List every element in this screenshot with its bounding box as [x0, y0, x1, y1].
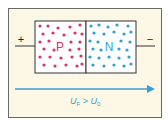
hole-dot	[53, 64, 56, 67]
hole-dot	[56, 26, 59, 29]
electron-dot	[127, 55, 130, 58]
hole-dot	[59, 56, 62, 59]
hole-dot	[70, 55, 73, 58]
hole-dot	[75, 64, 78, 67]
electron-dot	[128, 40, 131, 43]
electron-dot	[117, 56, 120, 59]
hole-dot	[42, 47, 45, 50]
hole-dot	[79, 54, 82, 57]
hole-dot	[47, 39, 50, 42]
electron-dot	[122, 32, 125, 35]
hole-dot	[68, 25, 71, 28]
electron-dot	[129, 30, 132, 33]
electron-dot	[96, 40, 99, 43]
electron-dot	[112, 63, 115, 66]
hole-dot	[69, 40, 72, 43]
hole-dot	[68, 48, 71, 51]
hole-dot	[78, 40, 81, 43]
electron-dot	[88, 39, 91, 42]
electron-dot	[106, 25, 109, 28]
electron-dot	[122, 64, 125, 67]
voltage-label: UF > U0	[70, 96, 101, 107]
electron-dot	[99, 48, 102, 51]
electron-dot	[115, 23, 118, 26]
electron-dot	[88, 55, 91, 58]
hole-dot	[80, 62, 83, 65]
hole-dot	[38, 24, 41, 27]
electron-dot	[89, 24, 92, 27]
hole-dot	[78, 23, 81, 26]
hole-dot	[46, 24, 49, 27]
electron-dot	[119, 39, 122, 42]
p-label: P	[56, 40, 64, 54]
hole-dot	[80, 32, 83, 35]
hole-dot	[77, 47, 80, 50]
electron-dot	[129, 62, 132, 65]
hole-dot	[38, 40, 41, 43]
hole-dot	[42, 63, 45, 66]
electron-dot	[102, 32, 105, 35]
hole-dot	[41, 32, 44, 35]
electron-dot	[112, 30, 115, 33]
electron-dot	[117, 47, 120, 50]
electron-dot	[126, 24, 129, 27]
hole-dot	[38, 55, 41, 58]
electron-dot	[107, 55, 110, 58]
minus-sign: −	[147, 33, 153, 45]
arrow-head-icon	[147, 85, 155, 93]
electron-dot	[97, 23, 100, 26]
electron-dot	[91, 47, 94, 50]
electron-dot	[91, 63, 94, 66]
hole-dot	[62, 33, 65, 36]
hole-dot	[73, 31, 76, 34]
pn-junction-diagram: P N + − UF > U0	[0, 0, 168, 126]
electron-dot	[102, 64, 105, 67]
hole-dot	[51, 31, 54, 34]
electron-dot	[97, 56, 100, 59]
plus-sign: +	[18, 33, 24, 45]
hole-dot	[48, 55, 51, 58]
electron-dot	[92, 31, 95, 34]
n-label: N	[105, 40, 114, 54]
hole-dot	[64, 63, 67, 66]
electron-dot	[125, 48, 128, 51]
